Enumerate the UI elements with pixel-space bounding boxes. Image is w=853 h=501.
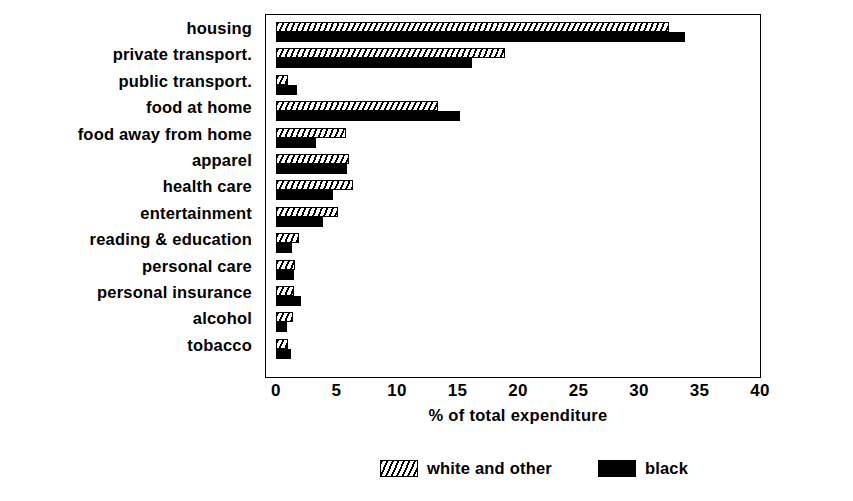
bar-white-and-other [276, 154, 349, 164]
bar-white-and-other [276, 128, 346, 138]
hatched-swatch-icon [380, 460, 418, 477]
bar-black [276, 32, 685, 42]
x-tick-label: 15 [448, 381, 468, 401]
bar-black [276, 296, 301, 306]
legend-item-white-and-other: white and other [380, 459, 552, 478]
bar-black [276, 217, 323, 227]
bar-white-and-other [276, 180, 353, 190]
bar-white-and-other [276, 75, 288, 85]
bar-white-and-other [276, 233, 299, 243]
bar-white-and-other [276, 339, 288, 349]
x-axis-title: % of total expenditure [276, 406, 760, 425]
x-tick-label: 40 [750, 381, 770, 401]
category-axis-labels: housingprivate transport.public transpor… [0, 14, 258, 364]
legend-label-white-and-other: white and other [427, 459, 552, 478]
bar-white-and-other [276, 48, 505, 58]
category-label: entertainment [0, 205, 252, 222]
bar-black [276, 111, 460, 121]
bar-white-and-other [276, 22, 669, 32]
category-label: food at home [0, 99, 252, 116]
x-tick-label: 25 [569, 381, 589, 401]
category-label: private transport. [0, 46, 252, 63]
category-label: tobacco [0, 337, 252, 354]
legend-item-black: black [598, 459, 688, 478]
bar-black [276, 243, 292, 253]
bar-black [276, 138, 316, 148]
category-label: food away from home [0, 126, 252, 143]
bar-black [276, 322, 287, 332]
bar-black [276, 270, 294, 280]
x-tick-label: 35 [690, 381, 710, 401]
black-swatch-icon [598, 460, 636, 477]
x-axis-tick-labels: 0510152025303540 [276, 381, 776, 403]
category-label: health care [0, 178, 252, 195]
bar-white-and-other [276, 286, 294, 296]
category-label: reading & education [0, 231, 252, 248]
category-label: public transport. [0, 73, 252, 90]
category-label: apparel [0, 152, 252, 169]
bar-black [276, 190, 333, 200]
category-label: alcohol [0, 310, 252, 327]
x-tick-label: 0 [271, 381, 281, 401]
bar-white-and-other [276, 260, 295, 270]
category-label: housing [0, 20, 252, 37]
category-label: personal insurance [0, 284, 252, 301]
bar-white-and-other [276, 312, 293, 322]
bar-white-and-other [276, 101, 438, 111]
bar-black [276, 164, 347, 174]
legend-label-black: black [645, 459, 688, 478]
category-label: personal care [0, 258, 252, 275]
bar-black [276, 85, 297, 95]
x-tick-label: 20 [508, 381, 528, 401]
bar-black [276, 58, 472, 68]
x-tick-label: 10 [387, 381, 407, 401]
chart-legend: white and other black [380, 455, 734, 481]
expenditure-bar-chart: housingprivate transport.public transpor… [0, 0, 853, 501]
x-tick-label: 5 [332, 381, 342, 401]
bar-white-and-other [276, 207, 338, 217]
x-tick-label: 30 [629, 381, 649, 401]
plot-area [276, 14, 760, 378]
bar-black [276, 349, 291, 359]
